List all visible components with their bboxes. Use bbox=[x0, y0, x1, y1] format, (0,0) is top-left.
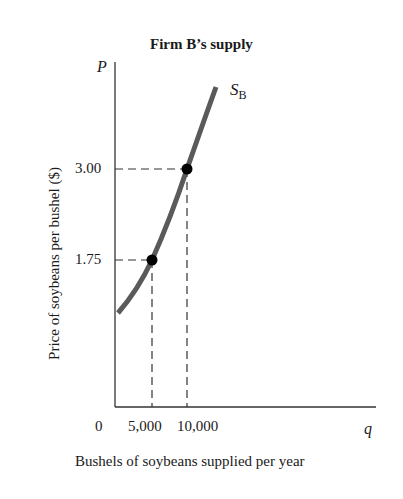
data-point-10000 bbox=[182, 164, 193, 175]
plot-area bbox=[0, 0, 403, 499]
supply-curve bbox=[118, 87, 216, 313]
data-point-5000 bbox=[147, 255, 158, 266]
